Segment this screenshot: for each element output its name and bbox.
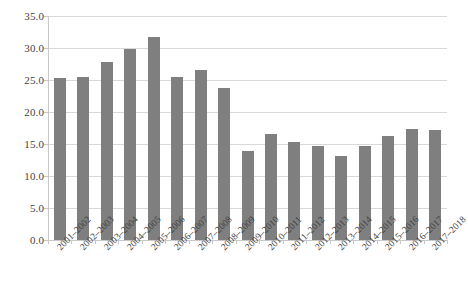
y-axis-labels: 0.05.010.015.020.025.030.035.0: [0, 0, 44, 290]
x-tick-mark: [306, 240, 307, 244]
x-tick-mark: [142, 240, 143, 244]
x-tick-mark: [95, 240, 96, 244]
x-tick-mark: [118, 240, 119, 244]
y-axis-tick-label: 25.0: [2, 75, 44, 86]
x-tick-mark: [236, 240, 237, 244]
x-tick-mark: [48, 240, 49, 244]
y-axis-tick-label: 5.0: [2, 203, 44, 214]
x-tick-mark: [447, 240, 448, 244]
y-axis-tick-label: 20.0: [2, 107, 44, 118]
x-tick-mark: [283, 240, 284, 244]
gridline: [48, 176, 447, 177]
gridline: [48, 48, 447, 49]
x-tick-mark: [189, 240, 190, 244]
y-axis-tick-label: 0.0: [2, 235, 44, 246]
plot-area: [48, 16, 447, 240]
x-tick-mark: [377, 240, 378, 244]
y-axis-tick-label: 15.0: [2, 139, 44, 150]
x-tick-mark: [424, 240, 425, 244]
x-tick-mark: [259, 240, 260, 244]
x-tick-mark: [71, 240, 72, 244]
y-axis-tick-label: 35.0: [2, 11, 44, 22]
gridline: [48, 112, 447, 113]
gridline: [48, 80, 447, 81]
x-tick-mark: [400, 240, 401, 244]
y-axis-tick-label: 30.0: [2, 43, 44, 54]
x-tick-mark: [165, 240, 166, 244]
gridline: [48, 16, 447, 17]
y-axis-tick-label: 10.0: [2, 171, 44, 182]
gridline: [48, 144, 447, 145]
x-tick-mark: [330, 240, 331, 244]
x-tick-mark: [353, 240, 354, 244]
y-axis-line: [48, 16, 49, 241]
x-tick-mark: [212, 240, 213, 244]
gridline: [48, 208, 447, 209]
